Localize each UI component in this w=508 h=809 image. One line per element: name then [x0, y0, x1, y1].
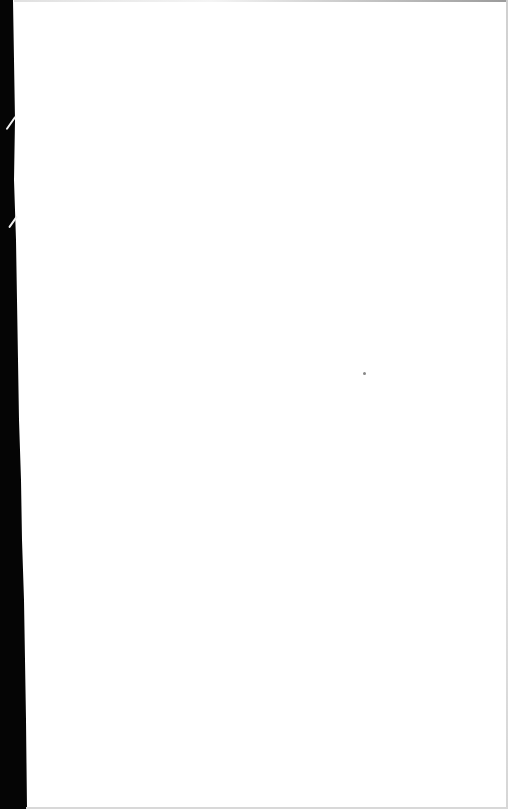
- binding-shadow-edge: [0, 0, 28, 809]
- page-top-edge: [14, 0, 508, 2]
- scanned-page: [0, 0, 508, 809]
- dust-speck: [363, 372, 366, 375]
